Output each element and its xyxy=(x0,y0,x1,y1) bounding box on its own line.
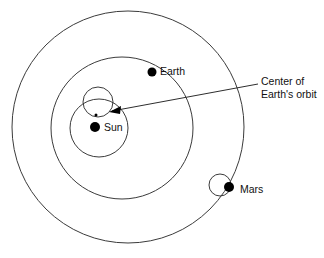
orbit-diagram: Sun Earth Mars Center of Earth's orbit xyxy=(0,0,324,258)
center-point-marker xyxy=(95,114,98,117)
mars-label: Mars xyxy=(240,183,263,195)
diagram-canvas: Sun Earth Mars Center of Earth's orbit xyxy=(0,0,324,258)
center-leader-line xyxy=(112,84,258,111)
sun-label: Sun xyxy=(104,121,123,133)
earth-label: Earth xyxy=(160,65,185,77)
center-of-earths-orbit-label-line2: Earth's orbit xyxy=(261,88,317,100)
center-of-earths-orbit-label-line1: Center of xyxy=(261,75,304,87)
center-epicycle-circle xyxy=(83,87,113,117)
mars-body-dot xyxy=(224,182,234,192)
earth-body-dot xyxy=(148,68,157,77)
sun-body-dot xyxy=(90,122,100,132)
